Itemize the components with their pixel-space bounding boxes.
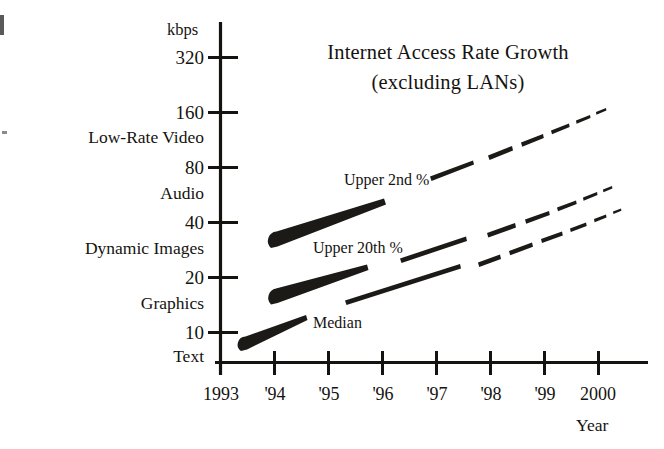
y-tick-label-160: 160 [128,103,204,122]
y-tick-label-10: 10 [128,323,204,342]
y-tick-marks [208,58,238,333]
scan-artifact-edge-mark [0,15,4,35]
x-tick-label-2000: 2000 [560,385,636,403]
y-tick-label-320: 320 [128,48,204,67]
y-tick-label-80: 80 [128,158,204,177]
series-annotation-upper-20th: Upper 20th % [313,240,403,256]
chart-canvas [0,0,664,449]
band-solid-median [238,315,308,351]
band-dashed-upper-20th [487,186,612,238]
series-annotation-upper-2nd: Upper 2nd % [344,172,429,188]
band-dashed-median [478,209,621,268]
y-tick-label-20: 20 [128,268,204,287]
band-solid2-upper-20th [400,237,467,264]
band-dashed-upper-2nd [488,108,606,160]
series-annotation-median: Median [313,315,362,331]
band-solid2-upper-2nd [430,161,474,182]
chart-title: Internet Access Rate Growth [272,42,624,63]
category-label-text: Text [4,348,204,366]
category-label-audio: Audio [4,185,204,203]
chart-subtitle: (excluding LANs) [272,72,624,93]
x-axis-name-label: Year [576,417,608,435]
category-label-graphics: Graphics [4,295,204,313]
scan-artifact-dot [2,131,7,134]
category-label-dynamic-images: Dynamic Images [4,240,204,258]
series-upper-2nd-percent [268,108,607,248]
y-axis-unit-label: kbps [167,22,198,39]
y-tick-label-40: 40 [128,213,204,232]
category-label-low-rate-video: Low-Rate Video [4,129,204,147]
chart-figure: Internet Access Rate Growth (excluding L… [0,0,664,449]
